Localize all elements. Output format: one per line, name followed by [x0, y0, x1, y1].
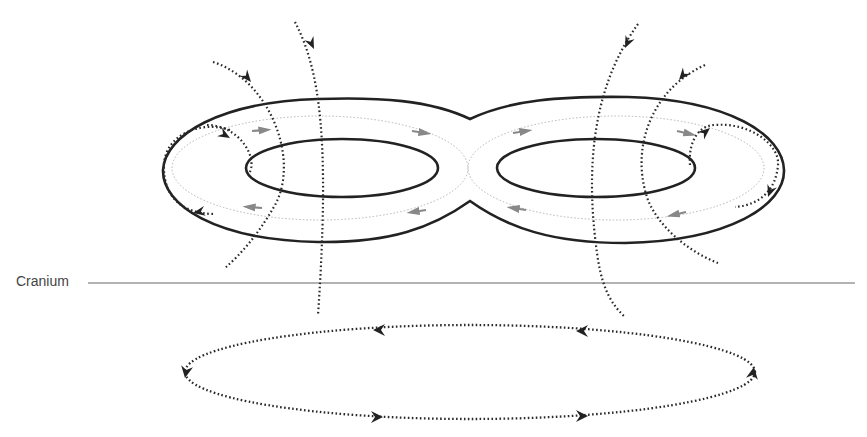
figure8-coil-diagram	[0, 0, 867, 437]
current-arrow-icon	[412, 131, 425, 133]
field-lines	[164, 22, 778, 317]
arrow-icon	[620, 35, 634, 50]
induced-current-loop	[185, 325, 755, 419]
current-arrow-icon	[513, 131, 526, 133]
current-arrow-icon	[249, 207, 262, 208]
arrow-icon	[576, 410, 588, 422]
arrow-icon	[576, 325, 588, 337]
arrow-icon	[675, 68, 690, 84]
coil-inner-left	[246, 139, 438, 197]
coil-current-right	[468, 116, 764, 220]
coil-current-left	[172, 116, 468, 220]
coil-outer	[163, 97, 784, 243]
arrow-icon	[179, 365, 193, 379]
arrow-icon	[304, 36, 318, 51]
field-line	[213, 62, 284, 268]
field-line	[295, 22, 323, 315]
field-line	[164, 127, 230, 214]
current-arrow-icon	[677, 131, 690, 134]
arrow-icon	[239, 70, 254, 86]
current-arrow-icon	[513, 208, 526, 210]
arrow-icon	[373, 324, 385, 336]
current-arrow-icon	[413, 210, 426, 212]
coil-inner-right	[497, 139, 695, 197]
field-line	[592, 24, 638, 317]
current-arrow-icon	[252, 130, 265, 131]
